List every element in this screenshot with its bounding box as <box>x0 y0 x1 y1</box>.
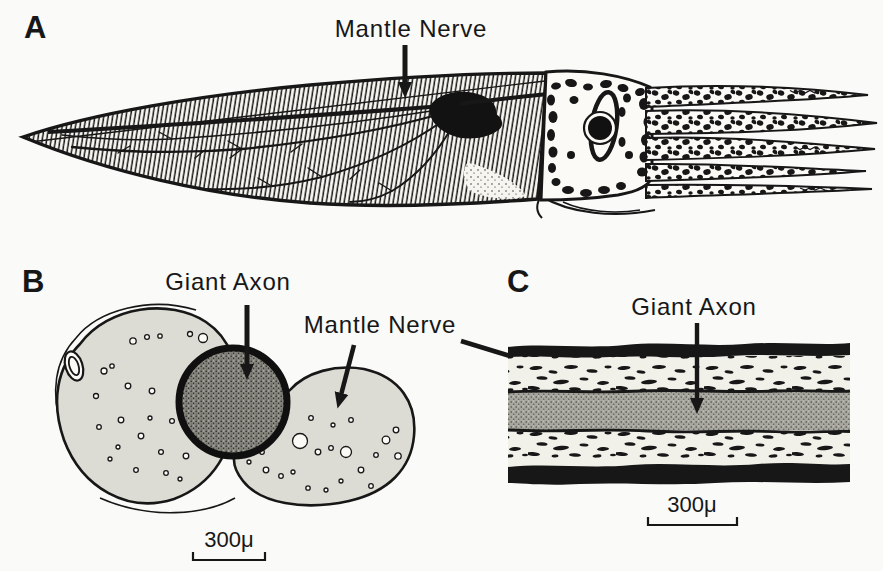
scale-bar-c-label: 300μ <box>667 492 716 517</box>
giant-axon-label-b: Giant Axon <box>165 268 290 295</box>
panel-a-letter: A <box>24 10 47 45</box>
giant-axon-band <box>508 392 850 430</box>
small-fiber-band-bottom <box>508 430 850 462</box>
mantle-nerve-label-a: Mantle Nerve <box>335 15 487 42</box>
panel-c-letter: C <box>507 264 530 299</box>
squid-arms <box>646 86 877 198</box>
scale-bar-b: 300μ <box>193 527 265 560</box>
panel-b-letter: B <box>22 264 45 299</box>
nerve-longitudinal-section <box>508 343 850 485</box>
panel-a: A Mantle Nerve <box>20 10 877 220</box>
scale-bar-c: 300μ <box>648 492 737 525</box>
mantle-nerve-label-bc: Mantle Nerve <box>304 311 456 338</box>
giant-axon-label-c: Giant Axon <box>631 293 756 320</box>
sheath-band-top <box>508 343 850 358</box>
scale-bar-b-label: 300μ <box>204 527 253 552</box>
mantle-muscle-hatching <box>20 60 560 220</box>
small-fiber-band-top <box>508 356 850 391</box>
panel-b: B Giant Axon Mantle Nerve 300μ <box>22 264 536 560</box>
giant-axon-cross-section <box>179 348 287 456</box>
squid-head <box>541 71 653 200</box>
figure-canvas: A Mantle Nerve B <box>0 0 883 571</box>
panel-c: C Giant Axon 300μ <box>507 264 850 525</box>
sheath-band-bottom <box>508 463 850 485</box>
figure: A Mantle Nerve B <box>0 0 883 571</box>
